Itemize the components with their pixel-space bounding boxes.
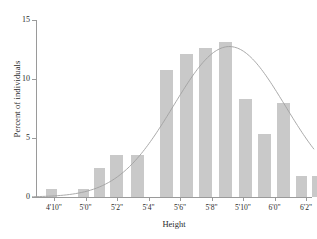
x-tick-label: 5'2": [111, 203, 123, 213]
x-tick-mark: [243, 197, 244, 201]
x-axis-title: Height: [36, 219, 312, 229]
x-tick-label: 5'6": [174, 203, 186, 213]
histogram-bar: [199, 48, 212, 197]
histogram-bar: [180, 54, 193, 197]
y-tick-mark: [32, 197, 36, 198]
histogram-bar: [110, 155, 123, 197]
y-tick-mark: [32, 138, 36, 139]
histogram-bar: [219, 42, 232, 197]
y-tick-mark: [32, 20, 36, 21]
x-tick-mark: [275, 197, 276, 201]
x-tick-label: 6'2": [300, 203, 312, 213]
histogram-bar: [160, 70, 173, 197]
x-tick-label: 6'0": [268, 203, 280, 213]
y-tick-label: 15: [22, 15, 30, 25]
x-tick-label: 5'10": [235, 203, 251, 213]
histogram-bar: [296, 176, 307, 197]
y-tick-mark: [32, 79, 36, 80]
x-tick-label: 5'0": [79, 203, 91, 213]
y-axis-line: [36, 20, 37, 198]
y-axis-title-text: Percent of individuals: [12, 60, 22, 137]
histogram-figure: Percent of individuals 051015 4'10"5'0"5…: [0, 0, 317, 239]
histogram-bar: [277, 103, 290, 197]
x-tick-mark: [212, 197, 213, 201]
histogram-bar: [46, 189, 57, 197]
histogram-bar: [131, 155, 144, 197]
histogram-bar: [239, 99, 252, 197]
x-tick-label: 5'4": [142, 203, 154, 213]
x-tick-label: 4'10": [46, 203, 62, 213]
x-tick-mark: [149, 197, 150, 201]
plot-area: 051015 4'10"5'0"5'2"5'4"5'6"5'8"5'10"6'0…: [36, 20, 312, 197]
histogram-bar: [94, 168, 105, 198]
x-tick-mark: [180, 197, 181, 201]
x-tick-mark: [54, 197, 55, 201]
normal-curve-path: [32, 47, 314, 197]
x-tick-mark: [86, 197, 87, 201]
histogram-bar: [258, 134, 271, 197]
x-tick-mark: [306, 197, 307, 201]
histogram-bar: [78, 189, 89, 197]
y-tick-label: 0: [26, 192, 30, 202]
y-axis-title: Percent of individuals: [9, 0, 25, 197]
x-axis-title-text: Height: [162, 219, 185, 229]
x-axis-line: [36, 197, 312, 198]
x-tick-mark: [117, 197, 118, 201]
x-tick-label: 5'8": [205, 203, 217, 213]
y-tick-label: 10: [22, 74, 30, 84]
histogram-bar: [312, 176, 317, 197]
y-tick-label: 5: [26, 133, 30, 143]
